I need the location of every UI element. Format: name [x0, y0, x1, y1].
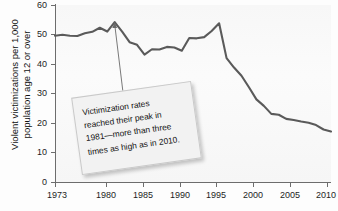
x-tick-label-1995: 1995 — [206, 190, 226, 200]
y-tick-label-10: 10 — [37, 148, 47, 157]
y-tick-label-40: 40 — [37, 60, 47, 69]
x-tick-label-1973: 1973 — [47, 190, 67, 200]
y-tick-label-50: 50 — [37, 30, 47, 39]
y-tick-label-60: 60 — [37, 1, 47, 10]
y-tick-label-0: 0 — [42, 178, 47, 187]
x-tick-1990 — [180, 182, 181, 187]
chart-figure: Violent victimizations per 1,000 populat… — [0, 0, 338, 211]
y-axis-title: Violent victimizations per 1,000 populat… — [9, 0, 32, 175]
y-tick-50 — [51, 34, 56, 35]
x-tick-label-1980: 1980 — [96, 190, 116, 200]
y-tick-10 — [51, 152, 56, 153]
x-tick-label-1990: 1990 — [170, 190, 190, 200]
y-tick-label-30: 30 — [37, 89, 47, 98]
callout-text: Victimization rates reached their peak i… — [81, 92, 192, 159]
x-tick-label-2005: 2005 — [280, 190, 300, 200]
y-tick-30 — [51, 93, 56, 94]
x-tick-2010 — [327, 182, 328, 187]
x-tick-1985 — [143, 182, 144, 187]
y-tick-60 — [51, 5, 56, 6]
x-tick-label-1985: 1985 — [133, 190, 153, 200]
y-tick-40 — [51, 64, 56, 65]
x-tick-2000 — [253, 182, 254, 187]
x-tick-2005 — [290, 182, 291, 187]
y-tick-label-20: 20 — [37, 119, 47, 128]
y-axis-title-line2: population age 12 or over — [20, 0, 32, 175]
callout-box: Victimization rates reached their peak i… — [71, 81, 202, 175]
y-axis-title-line1: Violent victimizations per 1,000 — [9, 0, 21, 175]
x-tick-1995 — [216, 182, 217, 187]
x-tick-label-2000: 2000 — [243, 190, 263, 200]
x-tick-1980 — [106, 182, 107, 187]
x-tick-1973 — [55, 182, 56, 187]
y-tick-20 — [51, 123, 56, 124]
x-tick-label-2010: 2010 — [316, 190, 336, 200]
